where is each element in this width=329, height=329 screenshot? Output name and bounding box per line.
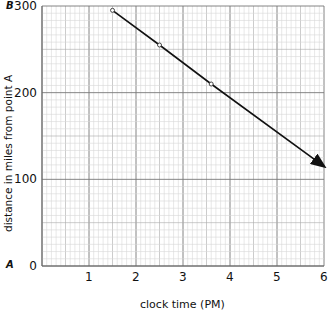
point-a-label: A (6, 259, 14, 270)
point-b-label: B (6, 0, 14, 11)
x-tick-label: 3 (179, 270, 187, 284)
y-tick-label: 100 (14, 172, 37, 186)
y-tick-label: 300 (14, 0, 37, 13)
y-tick-label: 200 (14, 86, 37, 100)
x-tick-label: 1 (85, 270, 93, 284)
x-axis-label: clock time (PM) (140, 298, 225, 311)
x-tick-label: 6 (320, 270, 328, 284)
data-line (111, 8, 325, 166)
x-tick-label: 5 (273, 270, 281, 284)
y-axis-label: distance in miles from point A (2, 75, 14, 232)
x-tick-label: 2 (132, 270, 140, 284)
y-tick-label: 0 (29, 259, 37, 273)
x-tick-label: 4 (226, 270, 234, 284)
